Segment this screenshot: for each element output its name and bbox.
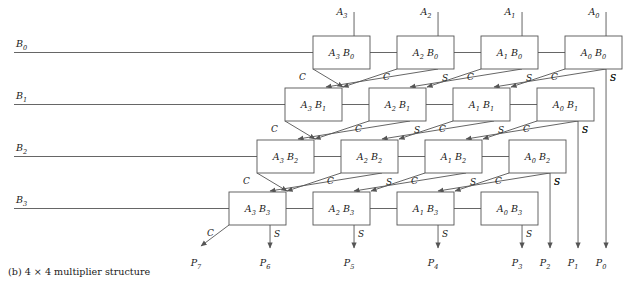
sum-label-long-r1: S <box>582 125 588 135</box>
p-output-label-P0: P0 <box>595 257 607 271</box>
carry-label-r0-c2: C <box>467 72 474 82</box>
a-input-label-A0: A0 <box>587 6 599 20</box>
carry-label-r2-c3: C <box>495 176 502 186</box>
sum-label-r1-c1: S <box>414 125 420 135</box>
b-input-label-B3: B3 <box>15 194 27 208</box>
multiplier-array-diagram: B0B1B2B3A3A2A1A0A3 B0A2 B0A1 B0A0 B0A3 B… <box>0 0 636 292</box>
p-output-label-P2: P2 <box>539 257 551 271</box>
carry-label-r1-c1: C <box>355 124 362 134</box>
b-input-label-B2: B2 <box>15 142 27 156</box>
sum-label-long-r0: S <box>610 73 616 83</box>
sum-label-bottom-c2: S <box>442 229 448 239</box>
carry-wire-r0-c0 <box>313 69 343 87</box>
carry-label-r1-c2: C <box>439 124 446 134</box>
carry-wire-p7 <box>201 225 229 246</box>
carry-label-r0-c0: C <box>299 72 306 82</box>
sum-label-bottom-c0: S <box>274 229 280 239</box>
carry-label-r1-c3: C <box>523 124 530 134</box>
a-input-label-A2: A2 <box>419 6 431 20</box>
p-output-label-P1: P1 <box>567 257 579 271</box>
p-output-label-P3: P3 <box>511 257 523 271</box>
sum-label-r2-c2: S <box>470 177 476 187</box>
carry-label-r1-c0: C <box>271 124 278 134</box>
p-output-label-P6: P6 <box>259 257 271 271</box>
sum-label-r2-c1: S <box>386 177 392 187</box>
carry-label-r2-c0: C <box>243 176 250 186</box>
carry-label-r2-c2: C <box>411 176 418 186</box>
multiplier-structure-figure: B0B1B2B3A3A2A1A0A3 B0A2 B0A1 B0A0 B0A3 B… <box>0 0 636 292</box>
sum-label-r1-c2: S <box>498 125 504 135</box>
sum-label-bottom-c1: S <box>358 229 364 239</box>
p-output-label-P4: P4 <box>427 257 439 271</box>
p-output-label-P7: P7 <box>190 257 202 271</box>
carry-label-r0-c3: C <box>551 72 558 82</box>
sum-label-r0-c1: S <box>442 73 448 83</box>
carry-label-r2-c1: C <box>327 176 334 186</box>
sum-label-bottom-c3: S <box>526 229 532 239</box>
a-input-label-A3: A3 <box>335 6 347 20</box>
sum-label-r0-c2: S <box>526 73 532 83</box>
carry-label-p7: C <box>207 228 214 238</box>
sum-label-long-r2: S <box>554 177 560 187</box>
carry-wire-r2-c0 <box>257 173 287 191</box>
b-input-label-B0: B0 <box>15 38 27 52</box>
a-input-label-A1: A1 <box>503 6 515 20</box>
carry-label-r0-c1: C <box>383 72 390 82</box>
p-output-label-P5: P5 <box>343 257 355 271</box>
b-input-label-B1: B1 <box>15 90 27 104</box>
figure-caption: (b) 4 × 4 multiplier structure <box>8 266 150 277</box>
carry-wire-r1-c0 <box>285 121 315 139</box>
